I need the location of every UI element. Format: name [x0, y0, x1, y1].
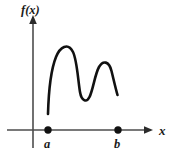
point-marker-b: [114, 126, 121, 133]
graph-canvas: f(x) x a b: [0, 0, 176, 161]
point-marker-a: [44, 126, 51, 133]
point-label-b: b: [114, 137, 120, 151]
x-axis-arrow-icon: [144, 126, 153, 134]
function-curve: [48, 47, 118, 114]
x-axis-label: x: [158, 123, 166, 138]
point-label-a: a: [44, 137, 50, 151]
function-graph-figure: f(x) x a b: [0, 0, 176, 161]
y-axis-label: f(x): [21, 3, 40, 17]
